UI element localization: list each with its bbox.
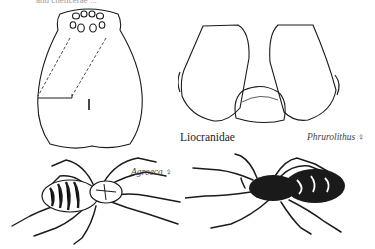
chelicerae-figure	[178, 20, 346, 130]
agroeca-label: Agroeca ♀	[131, 167, 172, 177]
phrurolithus-spider-drawing	[185, 150, 365, 240]
phrurolithus-label: Phrurolithus ♀	[307, 132, 365, 142]
family-label: Liocranidae	[180, 131, 235, 143]
carapace-drawing	[30, 4, 150, 152]
carapace-figure	[30, 4, 150, 152]
eye-group-icon	[70, 11, 105, 32]
chelicerae-drawing	[178, 20, 346, 130]
phrurolithus-figure	[185, 150, 365, 240]
